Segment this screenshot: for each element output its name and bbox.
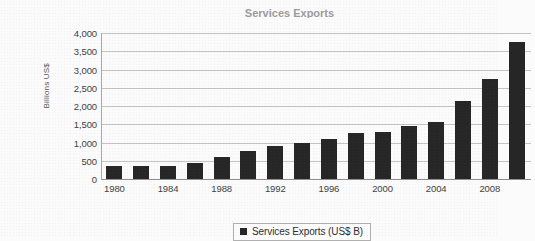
bar: [187, 163, 203, 179]
x-axis-tick-labels: 19801984198819921996200020042008: [101, 183, 530, 197]
y-tick-label: 1,000: [40, 137, 97, 148]
chart-legend: Services Exports (US$ B): [233, 223, 371, 241]
x-tick-label: 1992: [265, 183, 286, 194]
x-tick-label: 2008: [479, 183, 500, 194]
bar: [214, 157, 230, 179]
square-marker-icon: [240, 228, 247, 235]
bar-series-services-exports: [101, 33, 530, 179]
bar: [133, 166, 149, 179]
x-tick-label: 2000: [372, 183, 393, 194]
bar: [106, 166, 122, 179]
bar: [321, 139, 337, 179]
x-tick-label: 1980: [104, 183, 125, 194]
bar: [455, 101, 471, 179]
y-tick-label: 3,500: [40, 46, 97, 57]
y-tick-label: 0: [40, 174, 97, 185]
x-tick-label: 1984: [158, 183, 179, 194]
y-tick-label: 500: [40, 155, 97, 166]
y-tick-label: 1,500: [40, 119, 97, 130]
y-tick-label: 3,000: [40, 64, 97, 75]
bar: [160, 166, 176, 179]
bar: [428, 122, 444, 179]
bar: [482, 79, 498, 179]
bar: [375, 132, 391, 179]
x-tick-label: 2004: [426, 183, 447, 194]
legend-entry-label: Services Exports (US$ B): [252, 226, 363, 237]
bar: [240, 151, 256, 179]
x-tick-label: 1988: [211, 183, 232, 194]
chart-title: Services Exports: [40, 7, 535, 18]
bar: [267, 146, 283, 179]
bar: [348, 133, 364, 179]
y-tick-label: 2,000: [40, 101, 97, 112]
y-tick-label: 4,000: [40, 28, 97, 39]
y-axis-tick-labels: 05001,0001,5002,0002,5003,0003,5004,000: [40, 33, 97, 179]
bar-chart: Services Exports Billions US$ 05001,0001…: [40, 16, 459, 222]
y-tick-label: 2,500: [40, 82, 97, 93]
bar: [401, 126, 417, 179]
bar: [294, 143, 310, 180]
x-tick-label: 1996: [319, 183, 340, 194]
bar: [509, 42, 525, 179]
